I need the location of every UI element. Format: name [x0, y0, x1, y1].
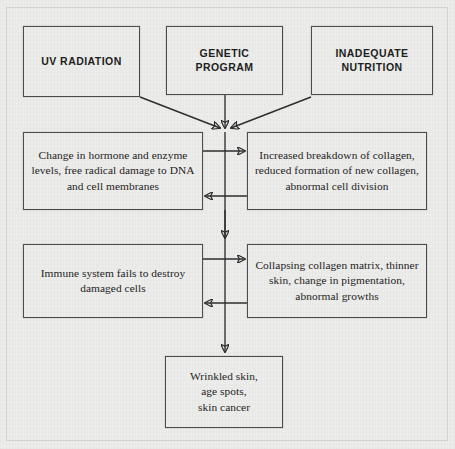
node-inadequate-nutrition-label: INADEQUATE NUTRITION [328, 47, 415, 75]
node-collagen-breakdown-label: Increased breakdown of collagen, reduced… [248, 148, 426, 193]
node-outcome[interactable]: Wrinkled skin, age spots, skin cancer [165, 356, 283, 428]
node-uv-radiation-label: UV RADIATION [34, 55, 128, 69]
node-immune-failure-label: Immune system fails to destroy damaged c… [24, 266, 202, 296]
node-uv-radiation[interactable]: UV RADIATION [23, 26, 140, 97]
node-genetic-program[interactable]: GENETIC PROGRAM [166, 26, 283, 95]
node-collapsing-matrix-label: Collapsing collagen matrix, thinner skin… [248, 258, 426, 303]
node-immune-failure[interactable]: Immune system fails to destroy damaged c… [23, 244, 203, 318]
edge-nutrition-to-junction [231, 97, 311, 128]
node-collapsing-matrix[interactable]: Collapsing collagen matrix, thinner skin… [247, 244, 427, 318]
node-hormone-enzyme-change[interactable]: Change in hormone and enzyme levels, fre… [23, 132, 203, 210]
diagram-canvas: UV RADIATION GENETIC PROGRAM INADEQUATE … [0, 0, 455, 449]
node-inadequate-nutrition[interactable]: INADEQUATE NUTRITION [311, 26, 433, 95]
node-genetic-program-label: GENETIC PROGRAM [189, 47, 261, 75]
node-hormone-enzyme-change-label: Change in hormone and enzyme levels, fre… [24, 148, 202, 193]
node-outcome-label: Wrinkled skin, age spots, skin cancer [183, 369, 265, 414]
node-collagen-breakdown[interactable]: Increased breakdown of collagen, reduced… [247, 132, 427, 210]
edge-uv-to-junction [140, 97, 220, 128]
